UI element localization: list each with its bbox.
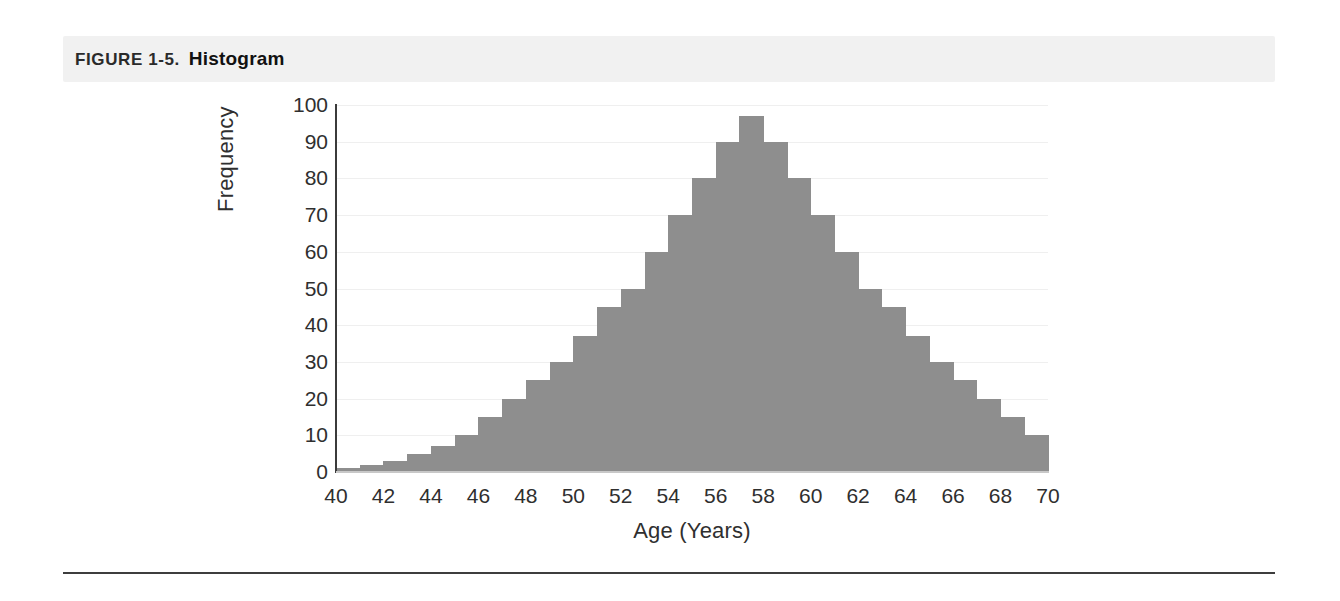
y-axis-tick-label: 70 [258,204,328,225]
histogram-bar [550,362,574,472]
histogram-bar [431,446,455,472]
histogram-bars [336,105,1048,472]
histogram-bar [526,380,550,472]
y-axis-label: Frequency [213,106,239,212]
x-axis-ticks: 40424446485052545658606264666870 [0,481,1340,511]
histogram-bar [668,215,692,472]
histogram-bar [811,215,835,472]
histogram-bar [977,399,1001,472]
y-axis-tick-label: 90 [258,131,328,152]
histogram-bar [858,289,882,473]
histogram-bar [739,116,763,472]
histogram-bar [787,178,811,472]
y-axis-tick-label: 10 [258,424,328,445]
figure-bottom-rule [63,572,1275,574]
x-axis-tick-label: 70 [1018,481,1078,511]
histogram-bar [929,362,953,472]
histogram-bar [455,435,479,472]
histogram-bar [953,380,977,472]
chart-plot: 0102030405060708090100 40424446485052545… [0,0,1340,601]
histogram-bar [597,307,621,472]
histogram-bar [1024,435,1048,472]
y-axis-tick-label: 100 [258,94,328,115]
figure-container: FIGURE 1-5.Histogram 0102030405060708090… [0,0,1340,601]
y-axis-tick-label: 40 [258,314,328,335]
y-axis-tick-label: 20 [258,388,328,409]
histogram-bar [1001,417,1025,472]
y-axis-tick-label: 60 [258,241,328,262]
histogram-bar [573,336,597,472]
y-axis-line [335,104,337,473]
histogram-bar [502,399,526,472]
histogram-bar [478,417,502,472]
y-axis-tick-label: 50 [258,278,328,299]
histogram-bar [834,252,858,472]
histogram-bar [621,289,645,473]
histogram-bar [882,307,906,472]
x-axis-label: Age (Years) [336,518,1048,544]
histogram-bar [692,178,716,472]
histogram-bar [716,142,740,472]
histogram-bar [407,454,431,472]
y-axis-tick-label: 80 [258,167,328,188]
histogram-bar [763,142,787,472]
y-axis-tick-label: 0 [258,461,328,482]
plot-area [336,105,1048,472]
y-axis-tick-label: 30 [258,351,328,372]
x-axis-line [336,471,1049,473]
histogram-bar [645,252,669,472]
histogram-bar [906,336,930,472]
